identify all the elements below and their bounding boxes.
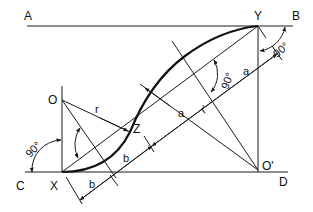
bisector-line-o-prime: [172, 41, 258, 170]
label-b: B: [292, 9, 300, 23]
label-a-upper: a: [243, 65, 250, 77]
label-y: Y: [254, 9, 262, 23]
label-r: r: [95, 103, 99, 115]
label-b-lower: b: [89, 178, 95, 190]
angle-arc-o: [75, 128, 80, 158]
label-angle-mid: 90°: [219, 71, 236, 91]
angle-arc-mid: [211, 60, 218, 92]
reverse-curve-diagram: A B C D X Y Z O O' r r' a a b b 90° 90° …: [0, 0, 313, 212]
dimension-line-b2: [80, 146, 152, 200]
label-c: C: [16, 179, 25, 193]
label-z: Z: [133, 122, 140, 136]
label-x: X: [50, 179, 58, 193]
label-angle-left: 90°: [23, 139, 43, 159]
extension-line-z: [144, 136, 154, 152]
label-a: A: [24, 9, 32, 23]
arrow-r: [100, 118, 128, 131]
label-a-lower: a: [178, 107, 185, 119]
label-d: D: [279, 175, 288, 189]
tick-y: [258, 26, 266, 38]
label-o: O: [48, 93, 57, 107]
label-o-prime: O': [262, 159, 274, 173]
extension-line-x: [66, 177, 82, 204]
tick-b-mid: [110, 175, 118, 186]
label-b-upper: b: [123, 152, 129, 164]
